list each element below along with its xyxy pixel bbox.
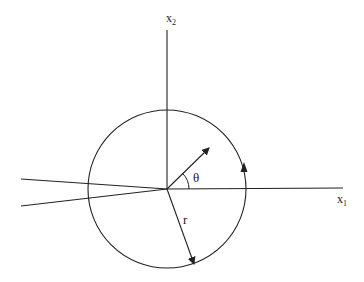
branch-cut-upper: [21, 179, 167, 189]
x1-axis: [167, 188, 343, 189]
x2-label-sub: 2: [172, 18, 176, 27]
r-vector: [167, 189, 194, 264]
branch-cut-lower: [21, 189, 167, 206]
x2-axis-label: x2: [166, 12, 176, 27]
r-label: r: [183, 213, 187, 226]
x1-label-sub: 1: [343, 199, 347, 208]
theta-label: θ: [193, 171, 199, 184]
theta-arc: [183, 173, 189, 189]
polar-diagram: [0, 0, 364, 282]
x1-axis-label: x1: [337, 193, 347, 208]
